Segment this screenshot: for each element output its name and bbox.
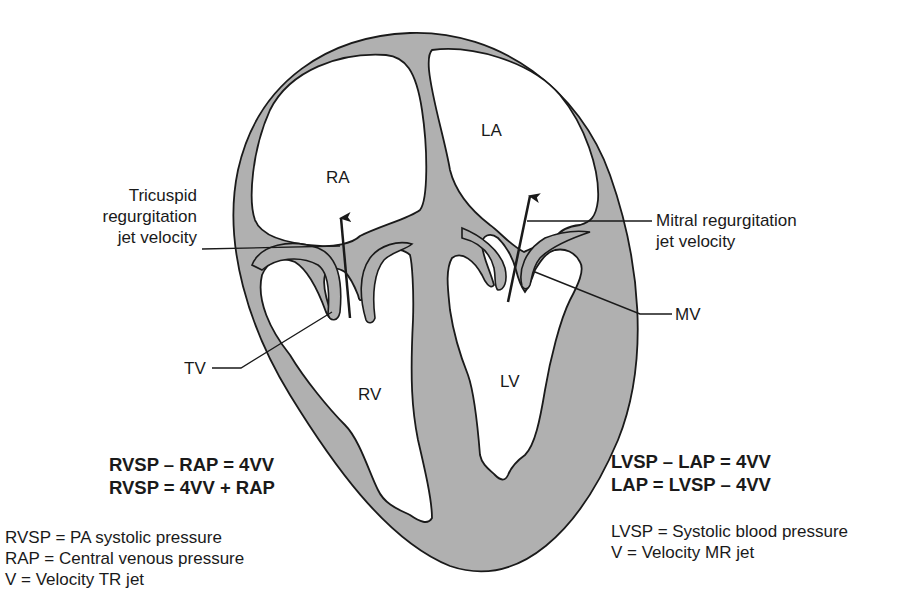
tricuspid-jet-label: Tricuspid regurgitation jet velocity bbox=[90, 185, 197, 248]
left-heart-equations: LVSP – LAP = 4VV LAP = LVSP – 4VV bbox=[611, 450, 771, 496]
lv-label: LV bbox=[500, 372, 520, 392]
right-heart-definitions: RVSP = PA systolic pressure RAP = Centra… bbox=[5, 527, 244, 590]
right-atrium bbox=[252, 55, 427, 247]
right-heart-equations: RVSP – RAP = 4VV RVSP = 4VV + RAP bbox=[109, 453, 275, 499]
mv-label: MV bbox=[675, 304, 701, 325]
la-label: LA bbox=[481, 121, 502, 141]
mitral-jet-label: Mitral regurgitation jet velocity bbox=[656, 210, 797, 252]
left-heart-definitions: LVSP = Systolic blood pressure V = Veloc… bbox=[611, 521, 848, 563]
heart-diagram bbox=[0, 0, 917, 609]
ra-label: RA bbox=[326, 168, 350, 188]
tv-label: TV bbox=[184, 358, 206, 379]
rv-label: RV bbox=[358, 385, 381, 405]
